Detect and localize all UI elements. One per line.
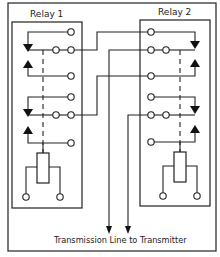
relay-1: Relay 1 <box>12 9 82 208</box>
output-arrow-icon <box>125 226 131 234</box>
coil-terminal <box>194 193 200 199</box>
coil-terminal <box>23 194 29 200</box>
interconnect-wiring <box>74 32 148 234</box>
terminal <box>53 47 59 53</box>
terminal <box>68 112 74 118</box>
terminal <box>148 29 154 35</box>
relay-2: Relay 2 <box>140 7 210 206</box>
terminal <box>53 112 59 118</box>
outer-frame <box>8 3 216 251</box>
terminal <box>68 29 74 35</box>
contact-arrow-down-icon <box>23 109 33 117</box>
contact-arrow-up-icon <box>190 125 200 133</box>
contact-arrow-up-icon <box>23 126 33 134</box>
terminal <box>68 47 74 53</box>
contact-arrow-down-icon <box>23 44 33 52</box>
terminal <box>68 140 74 146</box>
terminal <box>68 73 74 79</box>
contact-arrow-down-icon <box>190 41 200 49</box>
relay-1-coil <box>37 153 49 183</box>
relay-2-label: Relay 2 <box>158 7 191 17</box>
coil-terminal <box>57 194 63 200</box>
terminal <box>148 139 154 145</box>
contact-arrow-down-icon <box>190 106 200 114</box>
terminal <box>148 94 154 100</box>
output-arrow-icon <box>106 226 112 234</box>
terminal <box>148 112 154 118</box>
coil-terminal <box>160 193 166 199</box>
terminal <box>163 47 169 53</box>
relay-1-label: Relay 1 <box>30 9 63 19</box>
terminal <box>148 73 154 79</box>
contact-arrow-up-icon <box>23 60 33 68</box>
terminal <box>148 47 154 53</box>
relay-2-coil <box>174 152 186 182</box>
contact-arrow-up-icon <box>190 59 200 67</box>
transmission-line-caption: Transmission Line to Transmitter <box>53 235 187 245</box>
terminal <box>163 112 169 118</box>
relay-diagram: Relay 1 Relay 2 <box>0 0 220 257</box>
terminal <box>68 94 74 100</box>
